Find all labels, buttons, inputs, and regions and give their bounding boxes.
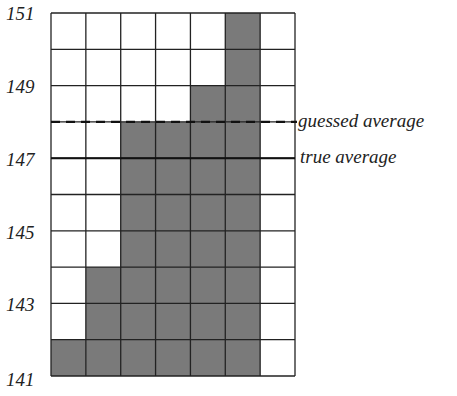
- y-tick-145: 145: [6, 222, 35, 243]
- y-tick-149: 149: [6, 76, 35, 97]
- bar-chart: 151 149 147 145 143 141 guessed average …: [0, 0, 457, 396]
- y-tick-147: 147: [6, 149, 36, 170]
- y-tick-143: 143: [6, 294, 35, 315]
- bar: [121, 122, 156, 376]
- bar: [86, 267, 121, 376]
- bar: [156, 122, 191, 376]
- y-tick-151: 151: [6, 3, 35, 24]
- y-tick-141: 141: [6, 369, 35, 390]
- bar: [51, 340, 86, 376]
- true-average-label: true average: [300, 146, 397, 167]
- guessed-average-label: guessed average: [298, 110, 424, 131]
